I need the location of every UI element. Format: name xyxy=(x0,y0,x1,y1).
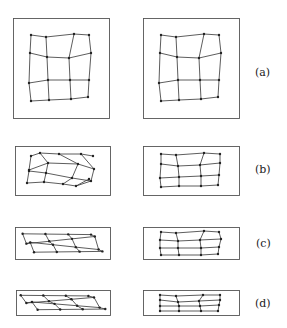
panel-frame xyxy=(14,19,110,119)
panel-frame xyxy=(144,19,240,119)
row-label-b: (b) xyxy=(255,163,271,176)
panel-frame xyxy=(144,291,240,316)
row-label-a: (a) xyxy=(255,66,270,79)
row-label-d: (d) xyxy=(255,297,271,310)
mesh-grids xyxy=(21,34,221,311)
mesh-deformation-figure xyxy=(0,0,287,328)
row-label-c: (c) xyxy=(256,237,271,250)
mesh-nodes xyxy=(20,33,223,312)
